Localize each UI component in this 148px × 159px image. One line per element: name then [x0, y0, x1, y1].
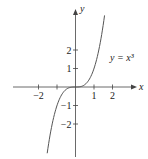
- equation-label: y = x³: [109, 52, 135, 63]
- x-axis-label: x: [138, 81, 144, 92]
- x-tick-label: 1: [92, 90, 97, 101]
- y-tick-label: 1: [67, 63, 72, 74]
- x-tick-label: 2: [110, 90, 115, 101]
- y-tick-label: 2: [67, 45, 72, 56]
- y-tick-label: −2: [61, 119, 72, 130]
- axes: [13, 9, 137, 157]
- x-tick-label: −2: [33, 90, 44, 101]
- y-tick-label: −1: [61, 100, 72, 111]
- y-axis-arrow-icon: [73, 9, 78, 15]
- y-axis-label: y: [79, 3, 85, 14]
- x-axis-arrow-icon: [131, 85, 137, 90]
- cubic-function-graph: −212−2−112 x y y = x³: [0, 0, 148, 159]
